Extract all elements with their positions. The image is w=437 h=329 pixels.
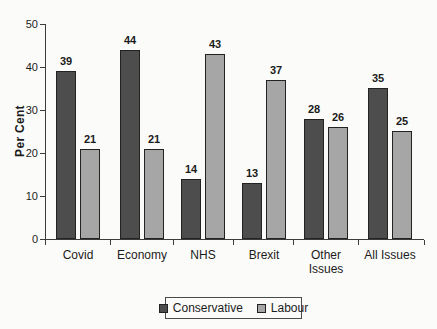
y-tick-label: 0	[12, 232, 38, 246]
bar-value-label: 44	[115, 33, 145, 47]
bar-value-label: 13	[237, 166, 267, 180]
legend: Conservative Labour	[165, 297, 302, 319]
bar-value-label: 21	[139, 132, 169, 146]
y-axis-line	[45, 24, 46, 239]
legend-item-conservative: Conservative	[159, 302, 243, 314]
bar-labour-4	[328, 127, 348, 239]
category-label-5: All Issues	[358, 248, 422, 262]
category-label-2: NHS	[171, 248, 235, 262]
y-tick-label: 30	[12, 103, 38, 117]
y-tick-label: 10	[12, 189, 38, 203]
category-label-1: Economy	[110, 248, 174, 262]
bar-labour-5	[392, 131, 412, 239]
bar-value-label: 43	[200, 37, 230, 51]
category-label-4: Other Issues	[294, 248, 358, 276]
x-axis-tick	[424, 240, 425, 245]
legend-label-conservative: Conservative	[173, 302, 243, 314]
bar-labour-2	[205, 54, 225, 239]
x-axis-tick	[358, 240, 359, 245]
x-axis-tick	[110, 240, 111, 245]
bar-value-label: 39	[51, 54, 81, 68]
y-tick-label: 20	[12, 146, 38, 160]
bar-chart: Per Cent 0102030405039441413283521214337…	[0, 0, 437, 329]
bar-value-label: 37	[261, 63, 291, 77]
legend-swatch-labour	[257, 304, 266, 313]
bar-value-label: 21	[75, 132, 105, 146]
x-axis-tick	[173, 240, 174, 245]
bar-value-label: 35	[363, 71, 393, 85]
legend-item-labour: Labour	[257, 302, 308, 314]
x-axis-tick	[293, 240, 294, 245]
bar-labour-3	[266, 80, 286, 239]
y-axis-tick	[40, 110, 45, 111]
legend-label-labour: Labour	[271, 302, 308, 314]
x-axis-tick	[233, 240, 234, 245]
x-axis-line	[45, 239, 424, 240]
bar-conservative-0	[56, 71, 76, 239]
bar-value-label: 26	[323, 110, 353, 124]
bar-value-label: 14	[176, 162, 206, 176]
plot-area: 01020304050394414132835212143372625Covid…	[0, 0, 437, 329]
bar-labour-1	[144, 149, 164, 239]
category-label-3: Brexit	[232, 248, 296, 262]
x-axis-tick	[45, 240, 46, 245]
bar-conservative-1	[120, 50, 140, 239]
y-axis-tick	[40, 24, 45, 25]
y-axis-tick	[40, 196, 45, 197]
bar-conservative-2	[181, 179, 201, 239]
y-tick-label: 50	[12, 17, 38, 31]
category-label-0: Covid	[46, 248, 110, 262]
y-axis-tick	[40, 67, 45, 68]
bar-value-label: 25	[387, 114, 417, 128]
legend-swatch-conservative	[159, 304, 168, 313]
bar-labour-0	[80, 149, 100, 239]
bar-conservative-5	[368, 88, 388, 239]
y-axis-tick	[40, 153, 45, 154]
bar-conservative-3	[242, 183, 262, 239]
y-tick-label: 40	[12, 60, 38, 74]
bar-conservative-4	[304, 119, 324, 239]
